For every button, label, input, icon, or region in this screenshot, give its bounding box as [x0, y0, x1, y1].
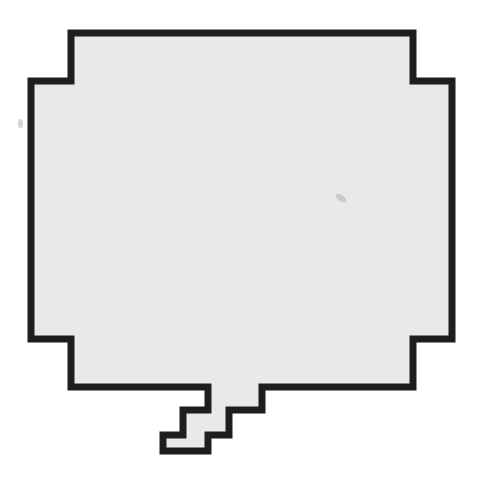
canvas: [0, 0, 482, 482]
speech-bubble-graphic: [0, 0, 482, 482]
left-smudge-mark: [18, 119, 23, 128]
speech-bubble-shape: [31, 33, 452, 451]
